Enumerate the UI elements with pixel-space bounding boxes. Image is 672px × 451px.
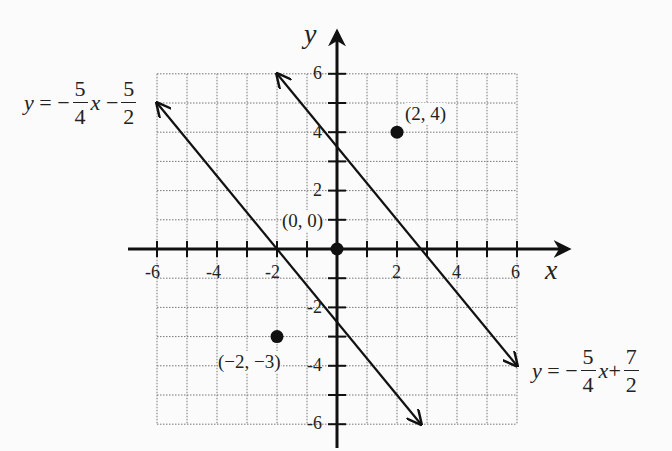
x-tick-label: -4 [206, 262, 221, 283]
data-point [271, 330, 284, 343]
point-label-origin: (0, 0) [282, 210, 323, 232]
coordinate-plane-figure: y x -6 -4 -2 2 4 6 6 4 2 -2 -4 -6 (2, 4)… [0, 0, 672, 451]
equation-lower-line: y = − 54 x − 52 [24, 78, 139, 128]
x-tick-label: -6 [145, 262, 160, 283]
y-tick-label: -6 [307, 413, 322, 434]
data-point [331, 243, 344, 256]
y-tick-label: -2 [307, 297, 322, 318]
y-tick-label: 6 [313, 63, 322, 84]
x-tick-label: 4 [452, 262, 461, 283]
point-label-neg2-neg3: (−2, −3) [218, 351, 281, 373]
x-tick-label: -2 [265, 262, 280, 283]
y-tick-label: 2 [313, 180, 322, 201]
y-axis-label: y [304, 18, 316, 50]
line-lower [157, 103, 421, 424]
point-label-2-4: (2, 4) [405, 103, 446, 125]
data-point [391, 126, 404, 139]
equation-upper-line: y = − 54 x+ 72 [532, 346, 642, 396]
x-tick-label: 6 [511, 262, 520, 283]
x-axis-label: x [545, 254, 557, 286]
y-tick-label: 4 [313, 122, 322, 143]
y-tick-label: -4 [307, 355, 322, 376]
x-tick-label: 2 [392, 262, 401, 283]
